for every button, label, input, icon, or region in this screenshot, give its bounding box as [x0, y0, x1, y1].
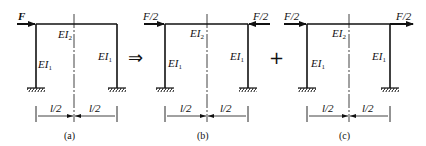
beam-label-a: EI2	[58, 29, 72, 44]
panel-b-frame	[144, 14, 270, 122]
beam-label-sub: 2	[200, 33, 204, 41]
dim-right-a: l/2	[89, 103, 101, 114]
left-col-label-b: EI1	[168, 58, 182, 73]
col-label-text: EI	[38, 58, 48, 70]
beam-label-c: EI2	[332, 28, 346, 43]
force-label-a: F	[18, 11, 25, 22]
dim-left-c: l/2	[322, 103, 334, 114]
beam-label-b: EI2	[190, 28, 204, 43]
caption-c: (c)	[339, 130, 350, 141]
plus-operator: +	[269, 47, 284, 68]
right-col-label-a: EI1	[98, 51, 112, 66]
col-label-sub: 1	[321, 63, 325, 71]
caption-b: (b)	[197, 130, 209, 141]
col-label-sub: 1	[48, 64, 52, 72]
beam-label-text: EI	[332, 27, 342, 39]
col-label-sub: 1	[108, 56, 112, 64]
col-label-text: EI	[168, 57, 178, 69]
dim-left-a: l/2	[50, 103, 62, 114]
col-label-sub: 1	[178, 63, 182, 71]
right-col-label-c: EI1	[372, 51, 386, 66]
left-col-label-c: EI1	[311, 58, 325, 73]
force-label-b-left: F/2	[143, 11, 158, 22]
dim-right-b: l/2	[220, 103, 232, 114]
force-label-c-right: F/2	[396, 11, 411, 22]
col-label-text: EI	[372, 50, 382, 62]
col-label-text: EI	[311, 57, 321, 69]
frame-diagram	[0, 0, 426, 146]
dim-left-b: l/2	[180, 103, 192, 114]
col-label-text: EI	[230, 50, 240, 62]
left-col-label-a: EI1	[38, 59, 52, 74]
caption-a: (a)	[64, 130, 75, 141]
dim-right-c: l/2	[362, 103, 374, 114]
beam-label-sub: 2	[342, 33, 346, 41]
force-label-c-left: F/2	[284, 11, 299, 22]
force-label-b-right: F/2	[253, 11, 268, 22]
right-col-label-b: EI1	[230, 51, 244, 66]
beam-label-sub: 2	[68, 34, 72, 42]
beam-label-text: EI	[58, 28, 68, 40]
implies-operator: ⇒	[128, 47, 143, 68]
beam-label-text: EI	[190, 27, 200, 39]
panel-c-frame	[284, 14, 413, 122]
col-label-sub: 1	[240, 56, 244, 64]
col-label-text: EI	[98, 50, 108, 62]
col-label-sub: 1	[382, 56, 386, 64]
